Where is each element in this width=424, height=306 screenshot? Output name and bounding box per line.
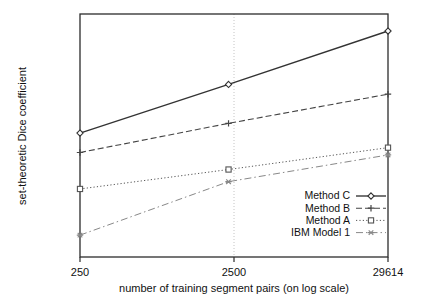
legend-label-method-b: Method B xyxy=(305,202,350,214)
legend-label-method-a: Method A xyxy=(306,214,350,226)
legend-label-ibm-model-1: IBM Model 1 xyxy=(291,226,350,238)
data-point-marker xyxy=(77,186,82,191)
chart-canvas: 250 2500 29614 number of training segmen… xyxy=(0,0,424,306)
xtick-label-2500: 2500 xyxy=(222,266,246,278)
x-axis-label: number of training segment pairs (on log… xyxy=(119,282,349,294)
legend-label-method-c: Method C xyxy=(304,189,350,201)
chart-figure: 250 2500 29614 number of training segmen… xyxy=(0,0,424,306)
data-point-marker xyxy=(385,145,390,150)
data-point-marker xyxy=(368,218,373,223)
y-axis-label: set-theoretic Dice coefficient xyxy=(16,67,28,205)
xtick-label-250: 250 xyxy=(71,266,89,278)
data-point-marker xyxy=(226,167,231,172)
xtick-label-29614: 29614 xyxy=(373,266,404,278)
